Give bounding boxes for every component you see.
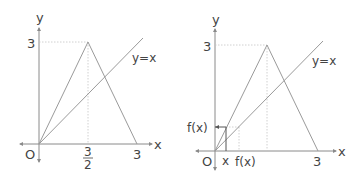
right-graph: y x O 3 f(x) x f(x) 3 y=x <box>187 12 346 171</box>
y-axis-bottom-arrow-icon <box>37 159 41 163</box>
y-axis-label: y <box>212 12 220 27</box>
origin-label: O <box>25 147 35 162</box>
fx-x-label: f(x) <box>235 155 256 169</box>
y-axis-label: y <box>36 10 44 25</box>
x-tick-3: 3 <box>313 154 321 169</box>
fx-y-label: f(x) <box>187 121 208 135</box>
identity-line <box>39 38 143 144</box>
x-axis-arrow-icon <box>333 149 337 153</box>
identity-line-label: y=x <box>312 54 336 68</box>
y-axis-arrow-icon <box>213 28 217 32</box>
x-axis-label: x <box>338 144 346 159</box>
x-tick-x: x <box>222 154 229 168</box>
diagram-canvas: y x O 3 3 2 3 y=x y x O 3 f(x) <box>0 0 362 180</box>
y-axis-arrow-icon <box>37 27 41 31</box>
x-axis-left-arrow-icon <box>195 149 199 153</box>
x-tick-3: 3 <box>133 147 141 162</box>
x-tick-mid-denominator: 2 <box>84 158 92 172</box>
identity-line-label: y=x <box>132 51 156 65</box>
x-tick-mid-numerator: 3 <box>84 145 92 159</box>
y-tick-3: 3 <box>203 39 211 54</box>
y-axis-bottom-arrow-icon <box>213 167 217 171</box>
left-graph: y x O 3 3 2 3 y=x <box>19 10 162 172</box>
y-tick-3: 3 <box>27 36 35 51</box>
x-axis-left-arrow-icon <box>19 142 23 146</box>
origin-label: O <box>202 154 212 169</box>
fx-arrow-icon <box>215 125 219 129</box>
x-axis-arrow-icon <box>149 142 153 146</box>
x-axis-label: x <box>154 137 162 152</box>
identity-line <box>215 41 323 151</box>
